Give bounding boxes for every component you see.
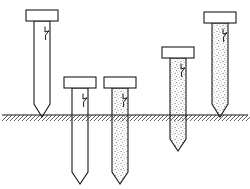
ground-hatch-tick: [246, 115, 250, 121]
pile-5-cap: [204, 12, 236, 23]
piles-group: [26, 10, 236, 184]
pile-2: [64, 77, 96, 184]
pile-1: [26, 10, 58, 117]
pile-5-shaft: [212, 23, 228, 117]
pile-2-cap: [64, 77, 96, 88]
pile-2-shaft: [72, 88, 88, 184]
pile-3-shaft: [112, 88, 128, 184]
pile-1-shaft: [34, 21, 50, 117]
pile-1-cap: [26, 10, 58, 21]
pile-diagram-canvas: [0, 0, 250, 189]
pile-4: [162, 47, 194, 151]
pile-3-cap: [104, 77, 136, 88]
pile-diagram-figure: [0, 0, 250, 189]
pile-3: [104, 77, 136, 184]
pile-4-shaft: [170, 58, 186, 151]
pile-5: [204, 12, 236, 117]
pile-4-cap: [162, 47, 194, 58]
